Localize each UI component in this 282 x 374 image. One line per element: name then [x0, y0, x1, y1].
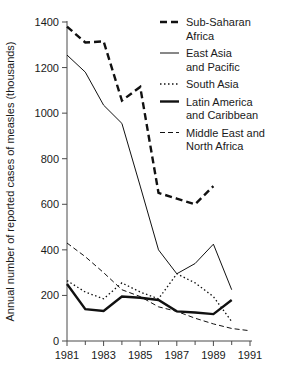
series-line-3: [67, 284, 232, 314]
legend-label-3: Latin America: [186, 96, 254, 108]
x-tick-label: 1987: [165, 349, 189, 361]
y-tick-label: 0: [53, 335, 59, 347]
x-tick-label: 1981: [55, 349, 79, 361]
measles-line-chart: 0200400600800100012001400 19811983198519…: [0, 0, 282, 374]
legend-label-4: Middle East and: [186, 127, 265, 139]
y-tick-label: 1000: [35, 107, 59, 119]
x-tick-label: 1983: [91, 349, 115, 361]
legend-label-4-line2: North Africa: [186, 140, 244, 152]
x-tick-label: 1991: [238, 349, 262, 361]
chart-canvas: 0200400600800100012001400 19811983198519…: [0, 0, 282, 374]
legend-label-0: Sub-Saharan: [186, 16, 251, 28]
y-tick-label: 1400: [35, 16, 59, 28]
y-tick-label: 1200: [35, 62, 59, 74]
series-line-1: [67, 55, 232, 290]
y-axis-title: Annual number of reported cases of measl…: [4, 41, 16, 321]
y-tick-label: 800: [41, 153, 59, 165]
legend-label-2: South Asia: [186, 78, 239, 90]
legend-label-0-line2: Africa: [186, 30, 215, 42]
legend-label-1: East Asia: [186, 47, 233, 59]
x-tick-label: 1985: [128, 349, 152, 361]
legend-label-1-line2: and Pacific: [186, 61, 240, 73]
series-line-4: [67, 243, 250, 331]
x-axis: 198119831985198719891991: [55, 341, 262, 361]
chart-legend: Sub-SaharanAfricaEast Asiaand PacificSou…: [160, 16, 265, 152]
y-tick-label: 400: [41, 244, 59, 256]
x-tick-label: 1989: [201, 349, 225, 361]
y-tick-label: 600: [41, 198, 59, 210]
y-tick-label: 200: [41, 289, 59, 301]
legend-label-3-line2: and Caribbean: [186, 109, 258, 121]
y-axis: 0200400600800100012001400: [35, 16, 67, 347]
